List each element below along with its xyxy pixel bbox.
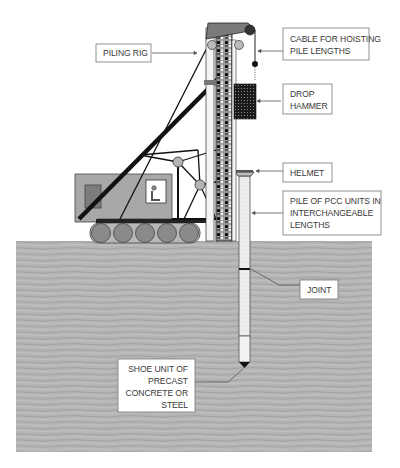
svg-text:STEEL: STEEL [161,400,188,410]
pulley [195,180,205,190]
svg-text:HELMET: HELMET [290,168,325,178]
operator-icon [152,186,157,191]
leader-lattice [216,30,232,241]
ground [16,241,372,452]
pile-driving-diagram: CABLE FOR HOISTING PILE LENGTHS PILING R… [0,0,400,468]
label-helmet: HELMET [283,163,332,182]
cable-hook [252,61,258,67]
drop-hammer [234,84,256,119]
svg-text:PRECAST: PRECAST [148,376,189,386]
helmet [235,172,254,176]
svg-text:CONCRETE OR: CONCRETE OR [126,388,188,398]
svg-text:PILE OF PCC UNITS IN: PILE OF PCC UNITS IN [290,196,381,206]
pulley [173,157,183,167]
svg-text:INTERCHANGEABLE: INTERCHANGEABLE [290,208,373,218]
label-shoe: SHOE UNIT OF PRECAST CONCRETE OR STEEL [118,359,195,412]
svg-text:SHOE UNIT OF: SHOE UNIT OF [128,364,188,374]
label-piling-rig: PILING RIG [96,44,151,62]
label-cable: CABLE FOR HOISTING PILE LENGTHS [283,28,381,60]
soil-block [16,241,372,452]
svg-text:PILING RIG: PILING RIG [103,48,148,58]
leader-mast [204,28,236,241]
label-drop-hammer: DROP HAMMER [283,84,332,114]
svg-text:PILE LENGTHS: PILE LENGTHS [290,46,351,56]
svg-text:DROP: DROP [290,89,315,99]
svg-text:HAMMER: HAMMER [290,101,328,111]
svg-text:JOINT: JOINT [307,285,332,295]
pile-shaft [239,176,250,336]
top-sheave [245,25,255,35]
svg-text:LENGTHS: LENGTHS [290,220,330,230]
crane-tracks [90,223,200,243]
label-joint: JOINT [300,280,338,299]
label-pile: PILE OF PCC UNITS IN INTERCHANGEABLE LEN… [283,191,381,235]
svg-text:CABLE FOR HOISTING: CABLE FOR HOISTING [290,34,381,44]
